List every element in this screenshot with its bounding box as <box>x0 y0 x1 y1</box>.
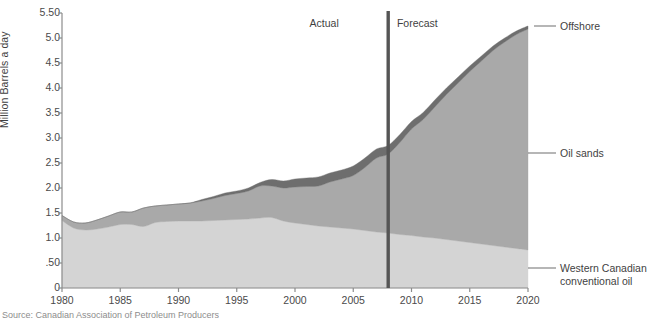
series-label-western-line2: conventional oil <box>560 275 632 287</box>
annotation-actual: Actual <box>310 17 339 29</box>
chart-footnote: Source: Canadian Association of Petroleu… <box>2 310 219 319</box>
annotation-forecast: Forecast <box>397 17 438 29</box>
series-label-western-canadian: Western Canadian conventional oil <box>560 262 647 287</box>
area-oil-sands <box>62 29 528 250</box>
series-label-western-line1: Western Canadian <box>560 262 647 274</box>
series-label-oil-sands: Oil sands <box>560 147 604 160</box>
label-leader-lines <box>528 26 556 268</box>
stacked-areas <box>62 26 528 288</box>
chart-figure: Million Barrels a day 0.501.01.52.02.53.… <box>0 0 651 319</box>
series-label-offshore: Offshore <box>560 20 600 33</box>
area-chart-plot <box>0 0 651 319</box>
